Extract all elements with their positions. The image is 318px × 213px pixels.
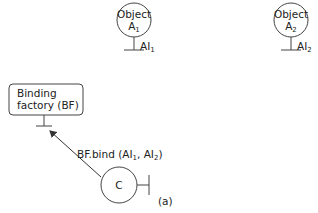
object-a1-id: A1 xyxy=(116,20,152,36)
client-c-label: C xyxy=(109,179,129,191)
object-a1-label: Object A1 xyxy=(116,8,152,36)
binding-factory-label: Binding factory (BF) xyxy=(17,87,79,111)
object-a2-label: Object A2 xyxy=(273,8,309,36)
object-a2-interface-label: AI2 xyxy=(297,40,312,56)
object-a1-interface-label: AI1 xyxy=(140,40,155,56)
bind-call-label: BF.bind (AI1, AI2) xyxy=(77,148,163,164)
object-a2-id: A2 xyxy=(273,20,309,36)
figure-label: (a) xyxy=(158,195,173,207)
